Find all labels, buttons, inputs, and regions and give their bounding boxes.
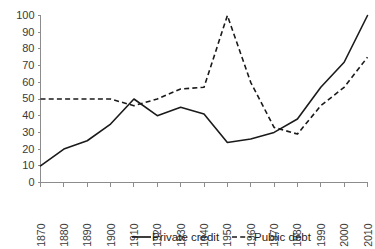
y-tick-label: 50 xyxy=(22,92,34,104)
x-tick-label: 1990 xyxy=(315,223,327,247)
x-tick-label: 1870 xyxy=(35,223,47,247)
x-tick-label: 1950 xyxy=(221,223,233,247)
y-tick-label: 60 xyxy=(22,76,34,88)
y-tick-label: 30 xyxy=(22,126,34,138)
x-tick-label: 1910 xyxy=(128,223,140,247)
x-tick-label: 1900 xyxy=(105,223,117,247)
legend-label-public-debt: Public debt xyxy=(254,231,312,243)
y-tick-label: 100 xyxy=(16,9,34,21)
y-tick-label: 0 xyxy=(28,176,34,188)
y-tick-label: 80 xyxy=(22,42,34,54)
x-tick-label: 2010 xyxy=(362,223,374,247)
series-line-public-debt xyxy=(41,16,368,135)
y-tick-label: 10 xyxy=(22,159,34,171)
line-chart: 0102030405060708090100 18701880189019001… xyxy=(0,0,375,249)
chart-container: 0102030405060708090100 18701880189019001… xyxy=(0,0,375,249)
x-tick-label: 2000 xyxy=(338,223,350,247)
y-tick-label: 40 xyxy=(22,109,34,121)
y-tick-label: 20 xyxy=(22,143,34,155)
y-tick-label: 70 xyxy=(22,59,34,71)
y-axis-tick-labels: 0102030405060708090100 xyxy=(16,9,34,188)
x-tick-label: 1880 xyxy=(58,223,70,247)
x-axis-tick-marks xyxy=(41,183,368,187)
legend-label-private-credit: Private credit xyxy=(152,231,220,243)
series-line-private-credit xyxy=(41,16,368,166)
x-tick-label: 1890 xyxy=(81,223,93,247)
y-tick-label: 90 xyxy=(22,26,34,38)
